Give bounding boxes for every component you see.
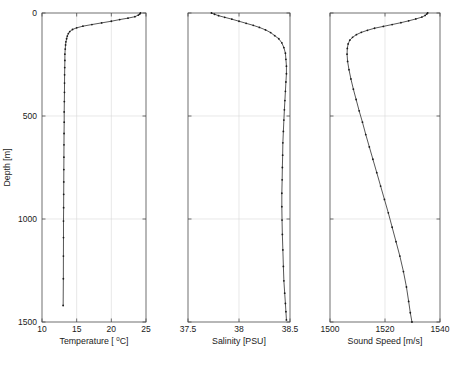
data-point-marker	[66, 35, 68, 37]
data-point-marker	[281, 42, 283, 44]
data-point-marker	[283, 280, 285, 282]
data-point-marker	[406, 286, 408, 288]
data-point-marker	[63, 181, 65, 183]
data-point-marker	[408, 20, 410, 22]
x-tick-label: 15	[72, 324, 82, 334]
data-point-marker	[411, 321, 413, 323]
data-point-marker	[409, 312, 411, 314]
data-series-line	[211, 13, 286, 320]
data-point-marker	[286, 65, 288, 67]
data-point-marker	[285, 303, 287, 305]
data-point-marker	[347, 61, 349, 63]
x-tick-label: 20	[107, 324, 117, 334]
x-tick-label: 25	[141, 324, 151, 334]
data-point-marker	[245, 22, 247, 24]
data-point-marker	[347, 43, 349, 45]
data-point-marker	[424, 15, 426, 17]
data-point-marker	[374, 27, 376, 29]
plot-frame	[42, 13, 146, 322]
data-point-marker	[63, 144, 65, 146]
data-point-marker	[265, 29, 267, 31]
x-tick-label: 38	[234, 324, 244, 334]
data-point-marker	[214, 13, 216, 15]
data-point-marker	[64, 67, 66, 69]
data-point-marker	[283, 119, 285, 121]
data-point-marker	[372, 158, 374, 160]
data-point-marker	[119, 19, 121, 21]
x-axis-title: Sound Speed [m/s]	[348, 336, 423, 346]
data-point-marker	[64, 74, 66, 76]
chart-panel-temperature-profile: 10152025050010001500Depth [m]Temperature…	[2, 8, 151, 346]
data-point-marker	[285, 52, 287, 54]
data-point-marker	[281, 234, 283, 236]
data-point-marker	[380, 185, 382, 187]
data-point-marker	[62, 305, 64, 307]
data-point-marker	[274, 35, 276, 37]
data-point-marker	[224, 16, 226, 18]
data-series-line	[347, 13, 428, 322]
data-point-marker	[365, 134, 367, 136]
y-tick-label: 1000	[18, 214, 37, 224]
data-point-marker	[67, 33, 69, 35]
data-point-marker	[400, 22, 402, 24]
x-axis-title: Salinity [PSU]	[212, 336, 266, 346]
data-point-marker	[368, 146, 370, 148]
data-point-marker	[285, 311, 287, 313]
data-point-marker	[285, 58, 287, 60]
data-point-marker	[218, 15, 220, 17]
data-point-marker	[64, 48, 66, 50]
data-point-marker	[282, 131, 284, 133]
data-point-marker	[137, 14, 139, 16]
x-tick-label: 37.5	[180, 324, 197, 334]
data-point-marker	[63, 237, 65, 239]
data-point-marker	[282, 142, 284, 144]
data-point-marker	[252, 24, 254, 26]
data-point-marker	[82, 25, 84, 27]
data-point-marker	[72, 29, 74, 31]
data-point-marker	[281, 179, 283, 181]
data-point-marker	[63, 101, 65, 103]
data-point-marker	[355, 99, 357, 101]
data-point-marker	[63, 121, 65, 123]
data-point-marker	[282, 249, 284, 251]
data-point-marker	[426, 13, 428, 15]
y-tick-label: 500	[23, 111, 37, 121]
data-point-marker	[356, 34, 358, 36]
data-point-marker	[399, 255, 401, 257]
data-point-marker	[62, 278, 64, 280]
data-point-marker	[350, 78, 352, 80]
data-point-marker	[408, 301, 410, 303]
data-point-marker	[76, 27, 78, 29]
x-tick-label: 1500	[321, 324, 340, 334]
data-point-marker	[286, 73, 288, 75]
y-tick-label: 1500	[18, 317, 37, 327]
data-point-marker	[63, 220, 65, 222]
y-axis-title: Depth [m]	[2, 148, 12, 186]
data-point-marker	[63, 193, 65, 195]
data-point-marker	[346, 48, 348, 50]
data-point-marker	[238, 20, 240, 22]
data-point-marker	[284, 292, 286, 294]
data-point-marker	[282, 154, 284, 156]
data-point-marker	[352, 36, 354, 38]
data-point-marker	[65, 44, 67, 46]
x-tick-label: 1540	[431, 324, 450, 334]
data-point-marker	[64, 82, 66, 84]
data-point-marker	[211, 12, 213, 14]
data-point-marker	[395, 241, 397, 243]
data-point-marker	[362, 121, 364, 123]
data-point-marker	[63, 207, 65, 209]
data-point-marker	[91, 24, 93, 26]
data-point-marker	[65, 41, 67, 43]
data-point-marker	[346, 53, 348, 55]
data-point-marker	[64, 91, 66, 93]
figure-caption	[0, 360, 456, 372]
data-point-marker	[69, 31, 71, 33]
data-series-line	[63, 13, 140, 306]
data-point-marker	[281, 206, 283, 208]
data-point-marker	[282, 265, 284, 267]
data-point-marker	[281, 167, 283, 169]
data-point-marker	[63, 156, 65, 158]
x-tick-label: 1520	[376, 324, 395, 334]
data-point-marker	[270, 32, 272, 34]
